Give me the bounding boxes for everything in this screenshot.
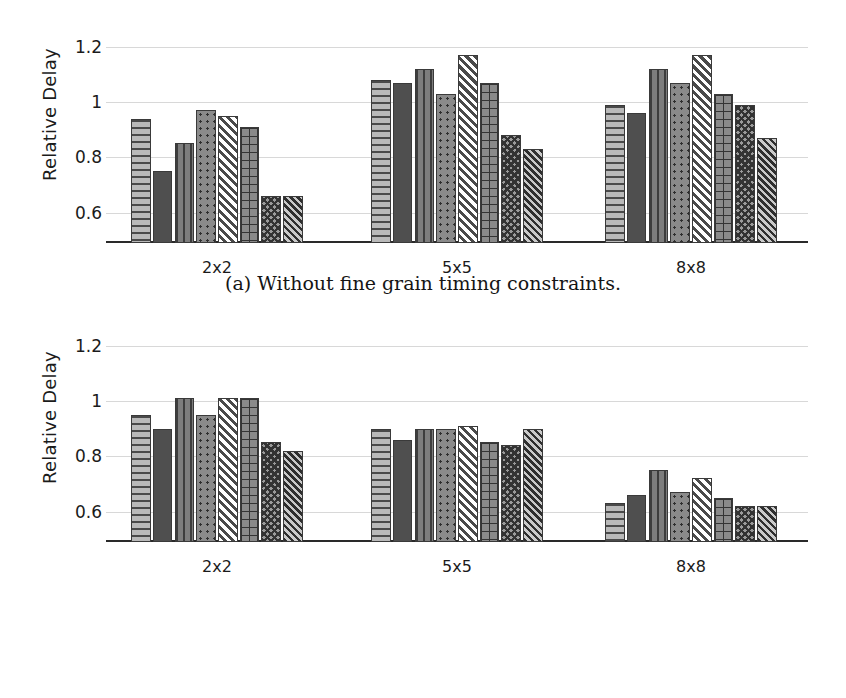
bar bbox=[735, 506, 755, 542]
bar bbox=[283, 196, 303, 243]
bar-group-5x5 bbox=[371, 30, 542, 243]
bar bbox=[153, 429, 173, 542]
y-axis-tick-label: 0.6 bbox=[42, 502, 102, 522]
plot-area-b bbox=[106, 329, 808, 542]
x-axis-tick-label: 2x2 bbox=[202, 557, 232, 576]
bar bbox=[218, 116, 238, 243]
x-axis-tick-label: 8x8 bbox=[676, 557, 706, 576]
bar bbox=[501, 445, 521, 542]
bar-group-8x8 bbox=[605, 329, 776, 542]
bar bbox=[218, 398, 238, 542]
bar bbox=[714, 498, 734, 542]
bar bbox=[692, 478, 712, 542]
bar bbox=[131, 415, 151, 542]
bar-group-5x5 bbox=[371, 329, 542, 542]
bar bbox=[757, 506, 777, 542]
bar bbox=[415, 69, 435, 243]
bar bbox=[501, 135, 521, 243]
bar bbox=[261, 196, 281, 243]
bar bbox=[131, 119, 151, 243]
bar bbox=[649, 470, 669, 542]
bar bbox=[458, 55, 478, 243]
subfigure-a: Relative Delay 0.60.811.2 2x25x58x8 (a) … bbox=[0, 0, 846, 312]
bar bbox=[480, 442, 500, 542]
x-axis-tick-label: 5x5 bbox=[442, 557, 472, 576]
y-axis-tick-label: 1 bbox=[42, 391, 102, 411]
bar bbox=[261, 442, 281, 542]
y-axis-tick-label: 1 bbox=[42, 92, 102, 112]
bar bbox=[692, 55, 712, 243]
bar bbox=[735, 105, 755, 243]
bar bbox=[670, 83, 690, 243]
y-axis-tick-label: 1.2 bbox=[42, 37, 102, 57]
caption-a: (a) Without fine grain timing constraint… bbox=[0, 272, 846, 294]
bar-group-2x2 bbox=[131, 329, 302, 542]
bar bbox=[196, 110, 216, 243]
y-axis-ticks-b: 0.60.811.2 bbox=[40, 329, 102, 542]
bar bbox=[757, 138, 777, 243]
bar bbox=[175, 143, 195, 243]
plot-area-a bbox=[106, 30, 808, 243]
bar bbox=[175, 398, 195, 542]
bar-chart-b: Relative Delay 0.60.811.2 2x25x58x8 bbox=[0, 315, 846, 553]
bar bbox=[240, 398, 260, 542]
bar bbox=[523, 429, 543, 542]
bar bbox=[480, 83, 500, 243]
bar bbox=[714, 94, 734, 243]
bar bbox=[393, 440, 413, 542]
bar bbox=[605, 105, 625, 243]
subfigure-b: Relative Delay 0.60.811.2 2x25x58x8 Basi… bbox=[0, 315, 846, 698]
bar bbox=[458, 426, 478, 542]
y-axis-tick-label: 0.8 bbox=[42, 446, 102, 466]
bar bbox=[605, 503, 625, 542]
bar bbox=[436, 94, 456, 243]
bar bbox=[153, 171, 173, 243]
bar-group-2x2 bbox=[131, 30, 302, 243]
bar bbox=[627, 495, 647, 542]
figure-relative-delay: Relative Delay 0.60.811.2 2x25x58x8 (a) … bbox=[0, 0, 846, 698]
bar-group-8x8 bbox=[605, 30, 776, 243]
bar-chart-a: Relative Delay 0.60.811.2 2x25x58x8 bbox=[0, 0, 846, 262]
bar bbox=[196, 415, 216, 542]
bar bbox=[283, 451, 303, 542]
bar bbox=[627, 113, 647, 243]
bar bbox=[371, 429, 391, 542]
bar bbox=[240, 127, 260, 243]
bar bbox=[415, 429, 435, 542]
y-axis-ticks-a: 0.60.811.2 bbox=[40, 30, 102, 243]
y-axis-tick-label: 1.2 bbox=[42, 336, 102, 356]
bar bbox=[436, 429, 456, 542]
bar bbox=[649, 69, 669, 243]
bar bbox=[670, 492, 690, 542]
y-axis-tick-label: 0.8 bbox=[42, 147, 102, 167]
bar bbox=[393, 83, 413, 243]
y-axis-tick-label: 0.6 bbox=[42, 203, 102, 223]
bar bbox=[371, 80, 391, 243]
bar bbox=[523, 149, 543, 243]
